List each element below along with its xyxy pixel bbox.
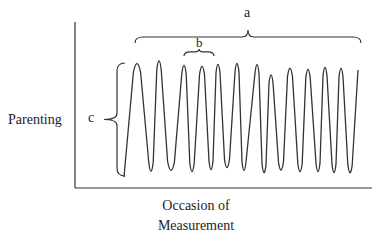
x-axis-label-line2: Measurement [131, 216, 261, 236]
x-axis-label-line1: Occasion of [131, 196, 261, 216]
annotation-c-label: c [88, 111, 94, 125]
brace-c [104, 63, 125, 176]
annotation-b-label: b [196, 36, 203, 49]
oscillating-wave [124, 61, 358, 177]
annotation-a-label: a [244, 6, 250, 20]
oscillation-diagram: Parenting Occasion of Measurement a b c [0, 0, 384, 236]
x-axis-label: Occasion of Measurement [131, 196, 261, 236]
brace-a [135, 30, 361, 43]
brace-b [184, 49, 214, 56]
y-axis-label: Parenting [8, 113, 62, 127]
